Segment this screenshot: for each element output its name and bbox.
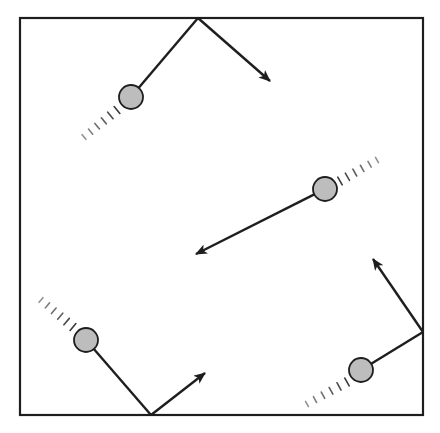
background	[0, 0, 440, 433]
ball	[313, 177, 337, 201]
ball	[119, 85, 143, 109]
ball	[74, 328, 98, 352]
bouncing-balls-diagram	[0, 0, 440, 433]
ball	[349, 358, 373, 382]
